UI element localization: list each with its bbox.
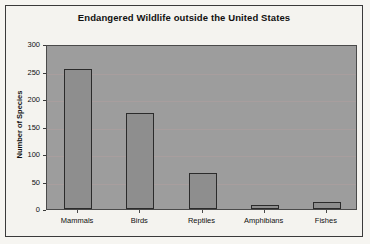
bar-birds	[126, 113, 154, 209]
y-tick-label: 300	[10, 41, 40, 49]
y-tick-label: 50	[10, 179, 40, 187]
bar-amphibians	[251, 205, 279, 209]
y-tick-label: 150	[10, 124, 40, 132]
chart-figure: Endangered Wildlife outside the United S…	[0, 0, 370, 244]
gridline	[47, 74, 356, 75]
bar-fishes	[313, 202, 341, 209]
bar-mammals	[64, 69, 92, 209]
plot-area	[46, 45, 357, 210]
y-tick-mark	[43, 210, 46, 211]
x-tick-mark	[264, 210, 265, 213]
x-tick-mark	[326, 210, 327, 213]
plot-inner	[47, 46, 356, 209]
gridline	[47, 129, 356, 130]
gridline	[47, 156, 356, 157]
x-tick-mark	[202, 210, 203, 213]
y-tick-label: 100	[10, 151, 40, 159]
x-tick-mark	[139, 210, 140, 213]
x-tick-mark	[77, 210, 78, 213]
y-tick-label: 0	[10, 206, 40, 214]
bar-reptiles	[189, 173, 217, 209]
chart-title: Endangered Wildlife outside the United S…	[6, 12, 362, 23]
y-tick-label: 200	[10, 96, 40, 104]
x-tick-label: Fishes	[286, 216, 366, 225]
y-tick-label: 250	[10, 69, 40, 77]
gridline	[47, 101, 356, 102]
